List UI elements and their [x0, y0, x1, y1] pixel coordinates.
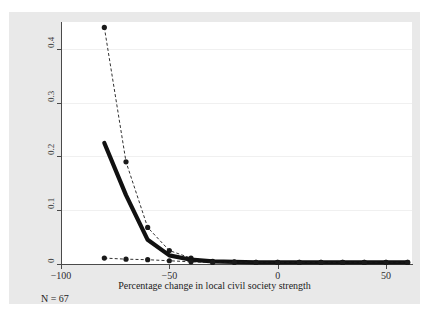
data-point-marker [102, 25, 107, 30]
x-axis-tick-label: −50 [162, 270, 178, 281]
data-point-marker [123, 257, 128, 262]
x-axis-tick-label: −100 [51, 270, 72, 281]
graph-panel: Percentage change in local civil society… [9, 12, 420, 304]
data-point-marker [297, 260, 302, 265]
data-point-marker [102, 255, 107, 260]
data-point-marker [145, 257, 150, 262]
data-point-marker [123, 159, 128, 164]
data-point-marker [253, 260, 258, 265]
data-point-marker [232, 260, 237, 265]
x-axis-tick [169, 265, 170, 269]
sample-size-note: N = 67 [41, 293, 69, 304]
data-point-marker [210, 260, 215, 265]
data-point-marker [188, 259, 193, 264]
data-point-marker [340, 260, 345, 265]
series-line-point-estimate [104, 143, 407, 262]
x-axis-title: Percentage change in local civil society… [9, 280, 420, 291]
chart-svg [9, 12, 420, 304]
figure-container: Percentage change in local civil society… [0, 0, 429, 321]
x-axis-tick [386, 265, 387, 269]
data-point-marker [167, 258, 172, 263]
data-point-marker [405, 260, 410, 265]
data-point-marker [145, 225, 150, 230]
x-axis-tick [61, 265, 62, 269]
x-axis-tick [278, 265, 279, 269]
data-point-marker [318, 260, 323, 265]
x-axis-tick-label: 50 [381, 270, 391, 281]
data-point-marker [362, 260, 367, 265]
x-axis-tick-label: 0 [275, 270, 280, 281]
